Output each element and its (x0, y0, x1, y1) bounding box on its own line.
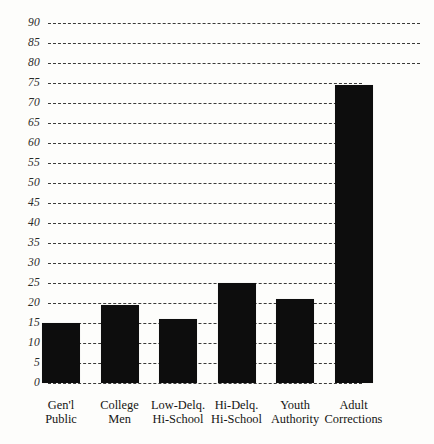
gridline-90 (48, 23, 420, 24)
gridline-75 (48, 83, 362, 84)
gridline-60 (48, 143, 362, 144)
y-axis-tick-45: 45 (6, 197, 40, 208)
x-axis-label-5-line1: Adult (302, 398, 406, 412)
gridline-30 (48, 263, 362, 264)
gridline-15 (48, 323, 362, 324)
bar-0 (42, 323, 80, 383)
y-axis-tick-60: 60 (6, 137, 40, 148)
y-axis-tick-15: 15 (6, 317, 40, 328)
gridline-65 (48, 123, 362, 124)
gridline-85 (48, 43, 420, 44)
bar-2 (159, 319, 197, 383)
y-axis-tick-30: 30 (6, 257, 40, 268)
y-axis-tick-55: 55 (6, 157, 40, 168)
y-axis-tick-90: 90 (6, 17, 40, 28)
y-axis-tick-50: 50 (6, 177, 40, 188)
y-axis-tick-65: 65 (6, 117, 40, 128)
y-axis-tick-85: 85 (6, 37, 40, 48)
gridline-70 (48, 103, 362, 104)
y-axis-tick-35: 35 (6, 237, 40, 248)
gridline-50 (48, 183, 362, 184)
y-axis-tick-75: 75 (6, 77, 40, 88)
x-axis-label-5-line2: Corrections (302, 412, 406, 426)
x-axis-label-5: AdultCorrections (302, 398, 406, 427)
bar-5 (335, 85, 373, 383)
y-axis-tick-70: 70 (6, 97, 40, 108)
gridline-40 (48, 223, 362, 224)
y-axis-tick-10: 10 (6, 337, 40, 348)
bar-3 (218, 283, 256, 383)
gridline-0 (48, 383, 362, 384)
gridline-35 (48, 243, 362, 244)
bar-chart: 908580757065605550454035302520151050 Gen… (0, 0, 434, 444)
bar-1 (101, 305, 139, 383)
y-axis-tick-80: 80 (6, 57, 40, 68)
gridline-20 (48, 303, 362, 304)
gridline-45 (48, 203, 362, 204)
gridline-5 (48, 363, 362, 364)
y-axis-tick-5: 5 (6, 357, 40, 368)
y-axis-tick-0: 0 (6, 377, 40, 388)
gridline-55 (48, 163, 362, 164)
y-axis-tick-25: 25 (6, 277, 40, 288)
gridline-10 (48, 343, 362, 344)
bar-4 (276, 299, 314, 383)
gridline-80 (48, 63, 420, 64)
gridline-25 (48, 283, 362, 284)
y-axis-tick-40: 40 (6, 217, 40, 228)
y-axis-tick-20: 20 (6, 297, 40, 308)
